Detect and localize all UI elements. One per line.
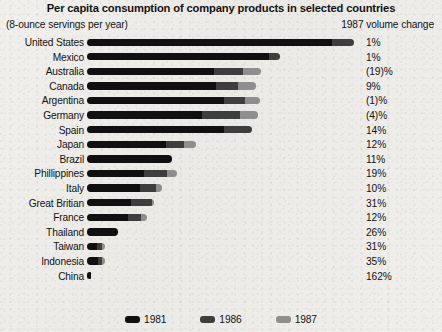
- bar-segment-1981: [87, 141, 166, 148]
- bar-segment-1986: [131, 199, 152, 206]
- bar-segment-1986: [140, 184, 155, 191]
- bar-segment-1981: [87, 155, 172, 162]
- legend-item-1987: 1987: [276, 314, 317, 325]
- bar-segment-1987: [141, 214, 147, 221]
- bar-segment-1981: [87, 228, 118, 235]
- chart-row: Italy10%: [0, 182, 442, 197]
- bar-segment-1981: [87, 199, 131, 206]
- chart-title: Per capita consumption of company produc…: [0, 2, 442, 14]
- bar-segment-1981: [87, 184, 140, 191]
- stacked-bar: [87, 82, 256, 89]
- chart-row: Australia(19)%: [0, 65, 442, 80]
- bar-segment-1981: [87, 272, 91, 279]
- chart-row: Thailand26%: [0, 226, 442, 241]
- volume-change-value: 1%: [366, 36, 381, 49]
- chart-row: Mexico1%: [0, 51, 442, 66]
- volume-change-value: 14%: [366, 124, 386, 137]
- bar-segment-1987: [238, 82, 256, 89]
- row-label-thailand: Thailand: [0, 226, 84, 239]
- volume-change-value: 35%: [366, 255, 386, 268]
- row-label-italy: Italy: [0, 182, 84, 195]
- bar-segment-1986: [202, 111, 240, 118]
- stacked-bar: [87, 53, 280, 60]
- bar-segment-1981: [87, 126, 224, 133]
- chart-subtitle: (8-ounce servings per year): [6, 19, 128, 30]
- legend-swatch-1986: [200, 316, 215, 323]
- volume-change-value: (1)%: [366, 94, 387, 107]
- bar-segment-1986: [224, 126, 252, 133]
- row-label-spain: Spain: [0, 124, 84, 137]
- stacked-bar: [87, 214, 147, 221]
- volume-change-value: 10%: [366, 182, 386, 195]
- volume-change-value: (4)%: [366, 109, 387, 122]
- bar-segment-1981: [87, 257, 98, 264]
- stacked-bar: [87, 272, 92, 279]
- bar-segment-1981: [87, 82, 216, 89]
- stacked-bar: [87, 39, 354, 46]
- volume-change-value: 31%: [366, 240, 386, 253]
- row-label-united-states: United States: [0, 36, 84, 49]
- stacked-bar: [87, 243, 105, 250]
- bar-segment-1981: [87, 170, 144, 177]
- legend-label-1981: 1981: [144, 314, 166, 325]
- bar-segment-1987: [156, 184, 162, 191]
- bar-segment-1986: [214, 68, 243, 75]
- row-label-mexico: Mexico: [0, 51, 84, 64]
- bar-segment-1981: [87, 97, 224, 104]
- bar-segment-1981: [87, 111, 202, 118]
- chart-rows: United States1%Mexico1%Australia(19)%Can…: [0, 36, 442, 284]
- bar-segment-1981: [87, 39, 332, 46]
- bar-segment-1986: [332, 39, 354, 46]
- bar-segment-1987: [152, 199, 154, 206]
- volume-change-value: 31%: [366, 197, 386, 210]
- chart-legend: 198119861987: [0, 314, 442, 325]
- row-label-canada: Canada: [0, 80, 84, 93]
- chart-row: Germany(4)%: [0, 109, 442, 124]
- chart-row: China162%: [0, 270, 442, 285]
- stacked-bar: [87, 184, 162, 191]
- volume-change-value: 12%: [366, 211, 386, 224]
- chart-row: Argentina(1)%: [0, 94, 442, 109]
- volume-change-value: (19)%: [366, 65, 393, 78]
- chart-row: Brazil11%: [0, 153, 442, 168]
- chart-row: Great Britian31%: [0, 197, 442, 212]
- row-label-brazil: Brazil: [0, 153, 84, 166]
- stacked-bar: [87, 111, 258, 118]
- stacked-bar: [87, 228, 118, 235]
- legend-swatch-1987: [276, 316, 291, 323]
- chart-row: United States1%: [0, 36, 442, 51]
- row-label-great-britian: Great Britian: [0, 197, 84, 210]
- row-label-france: France: [0, 211, 84, 224]
- bar-segment-1986: [166, 141, 184, 148]
- chart-row: Japan12%: [0, 138, 442, 153]
- bar-segment-1987: [240, 111, 258, 118]
- bar-segment-1981: [87, 243, 97, 250]
- bar-segment-1986: [128, 214, 141, 221]
- chart-row: France12%: [0, 211, 442, 226]
- bar-segment-1986: [224, 97, 245, 104]
- volume-change-value: 11%: [366, 153, 385, 166]
- stacked-bar: [87, 155, 172, 162]
- bar-segment-1987: [243, 68, 261, 75]
- row-label-japan: Japan: [0, 138, 84, 151]
- stacked-bar: [87, 126, 252, 133]
- legend-item-1986: 1986: [200, 314, 241, 325]
- volume-change-value: 19%: [366, 167, 386, 180]
- bar-segment-1986: [269, 53, 280, 60]
- chart-row: Indonesia35%: [0, 255, 442, 270]
- bar-segment-1987: [102, 243, 105, 250]
- volume-change-value: 9%: [366, 80, 381, 93]
- chart-row: Phillippines19%: [0, 167, 442, 182]
- bar-segment-1987: [245, 97, 260, 104]
- stacked-bar: [87, 141, 196, 148]
- legend-swatch-1981: [125, 316, 140, 323]
- bar-segment-1987: [184, 141, 196, 148]
- chart-row: Taiwan31%: [0, 240, 442, 255]
- bar-segment-1987: [167, 170, 177, 177]
- legend-label-1986: 1986: [219, 314, 241, 325]
- bar-segment-1986: [144, 170, 166, 177]
- bar-segment-1981: [87, 214, 128, 221]
- bar-segment-1987: [102, 257, 105, 264]
- volume-change-value: 1%: [366, 51, 381, 64]
- bar-segment-1981: [87, 68, 214, 75]
